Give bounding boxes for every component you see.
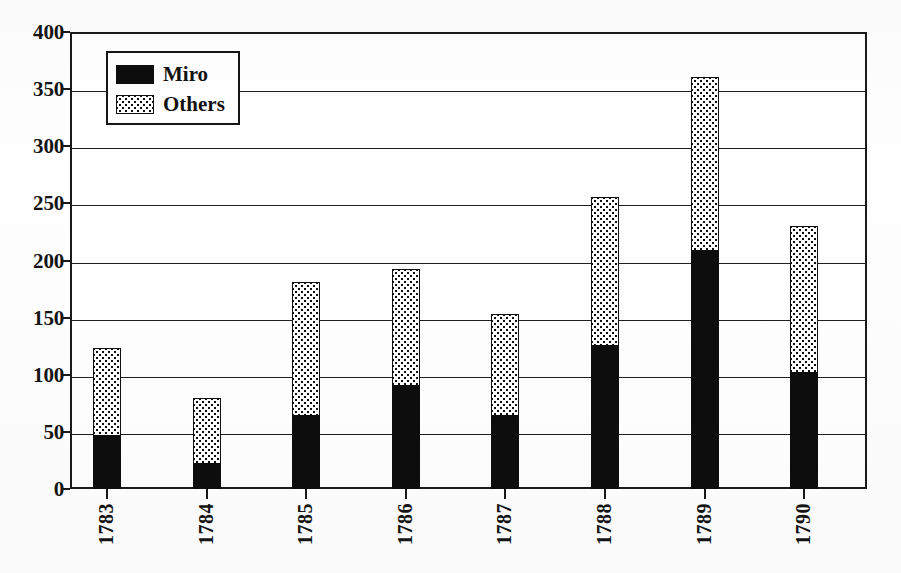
y-axis-tick-mark	[62, 374, 70, 376]
legend-swatch-others-icon	[116, 95, 154, 114]
y-axis-tick-label: 250	[4, 193, 64, 214]
bar-column	[691, 77, 719, 489]
y-axis-tick-mark	[62, 202, 70, 204]
bar-column	[491, 314, 519, 489]
legend-item-others: Others	[116, 89, 238, 119]
bar-column	[790, 226, 818, 489]
y-axis-tick-label: 0	[4, 479, 64, 500]
x-axis-tick-label: 1784	[196, 503, 216, 545]
bar-segment-miro	[491, 415, 519, 489]
y-axis-tick-label: 150	[4, 307, 64, 328]
x-axis-tick-mark	[504, 489, 506, 499]
x-axis-tick-mark	[803, 489, 805, 499]
legend-label-others: Others	[163, 94, 225, 115]
y-axis-tick-label: 400	[4, 22, 64, 43]
x-axis-tick-label: 1789	[694, 503, 714, 545]
bar-segment-miro	[790, 372, 818, 489]
bar-segment-others	[491, 314, 519, 415]
bar-column	[591, 197, 619, 489]
x-axis-tick-mark	[704, 489, 706, 499]
legend-label-miro: Miro	[163, 64, 208, 85]
y-axis-tick-mark	[62, 488, 70, 490]
x-axis-tick-label: 1787	[494, 503, 514, 545]
y-axis-tick-label: 200	[4, 250, 64, 271]
bar-segment-miro	[392, 385, 420, 489]
x-axis-tick-mark	[206, 489, 208, 499]
x-axis-tick-label: 1785	[295, 503, 315, 545]
x-axis-tick-label: 1790	[793, 503, 813, 545]
x-axis-tick-mark	[305, 489, 307, 499]
bar-segment-others	[93, 348, 121, 435]
y-axis-tick-mark	[62, 260, 70, 262]
y-axis-tick-mark	[62, 31, 70, 33]
y-axis-tick-mark	[62, 317, 70, 319]
bar-segment-miro	[691, 250, 719, 489]
bar-column	[93, 348, 121, 489]
y-axis-tick-mark	[62, 431, 70, 433]
bar-segment-others	[292, 282, 320, 415]
bar-column	[193, 398, 221, 489]
bar-column	[292, 282, 320, 489]
bar-segment-others	[193, 398, 221, 463]
x-axis-tick-mark	[405, 489, 407, 499]
y-axis-tick-label: 50	[4, 421, 64, 442]
legend-item-miro: Miro	[116, 59, 238, 89]
bar-segment-others	[392, 269, 420, 386]
x-axis-tick-label: 1786	[395, 503, 415, 545]
x-axis: 17831784178517861787178817891790	[70, 489, 867, 573]
bar-segment-miro	[93, 435, 121, 489]
y-axis-tick-mark	[62, 88, 70, 90]
bar-segment-others	[790, 226, 818, 372]
y-axis-tick-label: 100	[4, 364, 64, 385]
bar-column	[392, 269, 420, 489]
bar-segment-others	[691, 77, 719, 251]
y-axis-tick-label: 350	[4, 79, 64, 100]
y-axis-tick-label: 300	[4, 136, 64, 157]
legend: Miro Others	[106, 51, 240, 125]
bar-segment-miro	[292, 415, 320, 489]
bar-segment-miro	[193, 463, 221, 489]
y-axis-tick-mark	[62, 145, 70, 147]
bar-segment-miro	[591, 345, 619, 489]
x-axis-tick-label: 1783	[96, 503, 116, 545]
y-axis: 050100150200250300350400	[0, 32, 64, 489]
bar-segment-others	[591, 197, 619, 346]
legend-swatch-miro-icon	[116, 65, 154, 84]
x-axis-tick-label: 1788	[594, 503, 614, 545]
x-axis-tick-mark	[106, 489, 108, 499]
x-axis-tick-mark	[604, 489, 606, 499]
stacked-bar-chart: 050100150200250300350400 Miro Others 178…	[0, 0, 901, 573]
